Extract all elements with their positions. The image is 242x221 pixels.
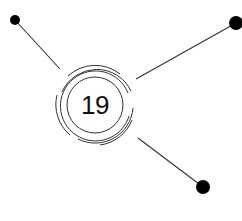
connector-line-bottom-right: [138, 138, 203, 187]
center-number: 19: [68, 88, 122, 122]
connector-line-top-left: [15, 20, 60, 69]
node-dot-bottom-right: [196, 180, 210, 194]
node-dot-top-right: [229, 16, 242, 30]
connector-line-top-right: [136, 23, 236, 79]
node-dot-top-left: [10, 15, 20, 25]
diagram-canvas: 19: [0, 0, 242, 221]
